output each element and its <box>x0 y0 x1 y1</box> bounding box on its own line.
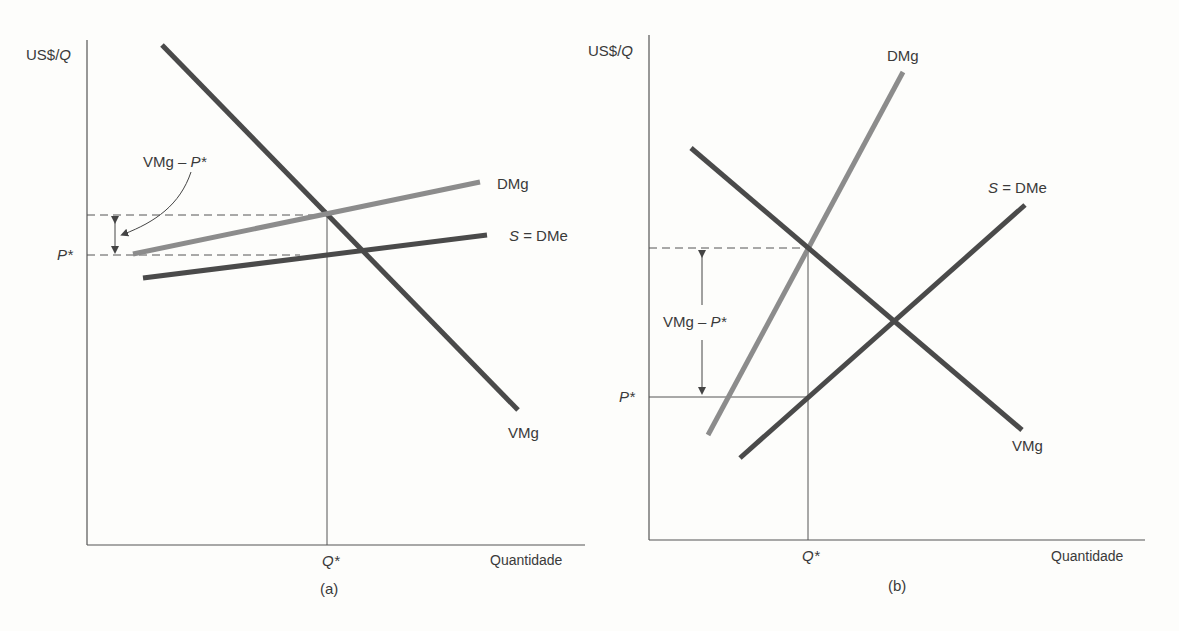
panel-a-vmg-minus-p-label: VMg – P* <box>143 154 206 169</box>
panel-b-ylabel-text: US$/ <box>588 42 621 59</box>
panel-b-vmg-minus-text: VMg – <box>663 313 711 330</box>
panel-b-p-star-label: P* <box>619 389 635 404</box>
panel-b-s-dme-label: S = DMe <box>988 180 1047 195</box>
panel-b-vmg-minus-p-label: VMg – P* <box>663 314 726 329</box>
panel-a-dmg-label: DMg <box>497 176 529 191</box>
panel-b-curve-vmg <box>691 148 1022 430</box>
panel-a-pointer-arrow <box>124 172 191 234</box>
panel-a-s-symbol: S <box>509 227 519 244</box>
panel-a-q-star-label: Q* <box>322 553 340 568</box>
panel-b-caption: (b) <box>888 578 906 593</box>
panel-a-curve-vmg <box>162 45 518 410</box>
panel-a-vmg-label: VMg <box>508 425 539 440</box>
panel-b-dmg-label: DMg <box>887 48 919 63</box>
panel-b-q-star-label: Q* <box>802 548 820 563</box>
panel-b-vmg-label: VMg <box>1012 438 1043 453</box>
panel-b-curve-dmg <box>708 72 903 435</box>
panel-a <box>87 40 585 545</box>
panel-b-p-star-inline: P* <box>711 313 727 330</box>
panel-b-dme-text: = DMe <box>998 179 1047 196</box>
panel-a-ylabel-text: US$/ <box>26 46 59 63</box>
panel-b-y-axis-label: US$/Q <box>588 43 633 58</box>
panel-b-curve-s-dme <box>740 205 1025 458</box>
panel-b <box>649 35 1145 540</box>
panel-b-x-axis-label: Quantidade <box>1051 549 1123 563</box>
panel-b-ylabel-q: Q <box>621 42 633 59</box>
panel-b-s-symbol: S <box>988 179 998 196</box>
panel-a-caption: (a) <box>320 581 338 596</box>
charts-canvas <box>0 0 1179 631</box>
panel-a-s-dme-label: S = DMe <box>509 228 568 243</box>
panel-a-p-star-label: P* <box>57 247 73 262</box>
panel-a-x-axis-label: Quantidade <box>490 553 562 567</box>
panel-a-p-star-inline: P* <box>191 153 207 170</box>
panel-a-y-axis-label: US$/Q <box>26 47 71 62</box>
panel-a-dme-text: = DMe <box>519 227 568 244</box>
panel-a-ylabel-q: Q <box>59 46 71 63</box>
panel-a-vmg-minus-text: VMg – <box>143 153 191 170</box>
